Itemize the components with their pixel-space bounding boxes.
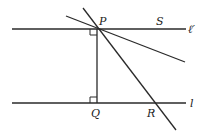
label-l-prime: ℓ′ [188, 24, 195, 35]
label-Q: Q [91, 108, 100, 119]
label-S: S [156, 16, 164, 27]
label-R: R [147, 108, 155, 119]
right-angle-mark-Q [90, 97, 97, 103]
geometry-diagram: P S ℓ′ Q R l [0, 0, 207, 137]
label-P: P [99, 16, 106, 27]
line-shallow-through-P [66, 16, 185, 62]
right-angle-mark-P [90, 29, 97, 35]
label-l: l [190, 98, 194, 109]
